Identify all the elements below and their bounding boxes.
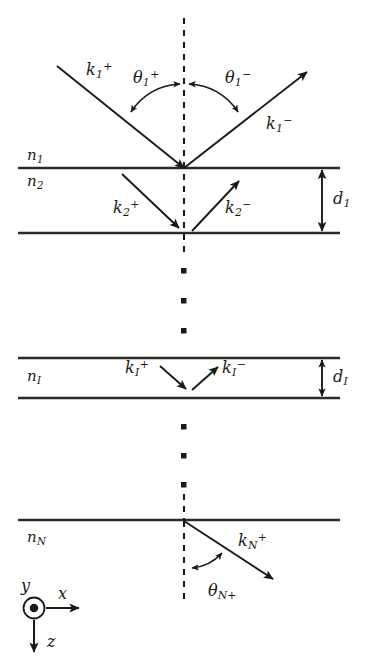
- label-kN-plus: kN+: [238, 533, 267, 552]
- label-kI-minus: kI−: [222, 360, 246, 379]
- label-k2-minus: k2−: [225, 200, 251, 219]
- interface-lines: [18, 168, 340, 520]
- label-k1-minus: k1−: [266, 116, 292, 135]
- ray-k1-plus: [57, 66, 184, 168]
- label-dI: dI: [333, 369, 348, 388]
- label-d1: d1: [333, 191, 350, 210]
- ray-kI-minus: [192, 367, 218, 390]
- label-nI: nI: [27, 369, 41, 386]
- label-axis-x: x: [58, 586, 67, 602]
- label-theta1-minus: θ1−: [225, 70, 251, 89]
- angle-arc-thetaN-plus: [192, 553, 222, 568]
- label-k2-plus: k2+: [113, 200, 139, 219]
- ray-kI-plus: [160, 366, 186, 389]
- label-theta1-plus: θ1+: [133, 70, 159, 89]
- vertical-ellipsis-icon-upper: [181, 268, 187, 334]
- figure-canvas: k1+ θ1+ θ1− k1− n1 n2 k2+ k2− d1 nI kI+ …: [0, 0, 367, 667]
- label-kI-plus: kI+: [125, 360, 149, 379]
- label-n1: n1: [27, 148, 43, 165]
- label-axis-z: z: [47, 634, 55, 650]
- vertical-ellipsis-icon-lower: [181, 424, 187, 488]
- label-nN: nN: [27, 530, 46, 547]
- label-n2: n2: [27, 174, 43, 191]
- diagram-svg: [0, 0, 367, 667]
- label-thetaN-plus: θN+: [208, 583, 236, 602]
- label-k1-plus: k1+: [86, 62, 112, 81]
- label-axis-y: y: [21, 578, 30, 594]
